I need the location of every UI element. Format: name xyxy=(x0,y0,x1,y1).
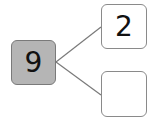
part-value-top: 2 xyxy=(115,10,133,43)
connector-line-bottom xyxy=(56,62,101,95)
part-box-top[interactable]: 2 xyxy=(101,4,147,49)
part-box-bottom[interactable] xyxy=(101,71,147,117)
connector-line-top xyxy=(56,27,101,62)
number-bond-diagram: 9 2 xyxy=(0,0,153,123)
whole-value: 9 xyxy=(25,46,43,79)
whole-box: 9 xyxy=(11,40,56,85)
